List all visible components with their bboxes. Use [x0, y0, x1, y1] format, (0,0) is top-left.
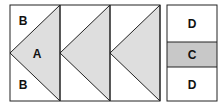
label-a: A: [33, 47, 42, 61]
label-b-top: B: [19, 14, 28, 28]
flying-geese-strip: B A B: [10, 5, 160, 101]
label-b-bottom: B: [19, 78, 28, 92]
goose-unit-2: [60, 5, 110, 101]
quilt-diagram: B A B D C D: [0, 0, 224, 106]
label-d-bottom: D: [188, 78, 197, 92]
goose-triangle: [60, 5, 110, 101]
label-d-top: D: [188, 17, 197, 31]
label-c: C: [188, 48, 197, 62]
side-block: D C D: [167, 5, 217, 101]
goose-unit-3: [110, 5, 160, 101]
goose-triangle: [110, 5, 160, 101]
